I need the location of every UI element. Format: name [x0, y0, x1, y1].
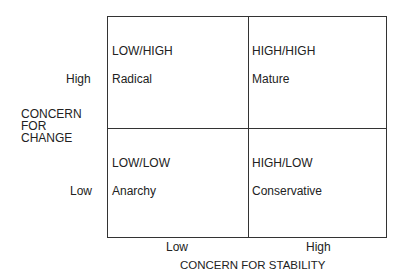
quadrant-top-right-code: HIGH/HIGH [252, 44, 315, 58]
quadrant-top-left-code: LOW/HIGH [112, 44, 173, 58]
horizontal-divider [108, 128, 386, 129]
x-axis-title: CONCERN FOR STABILITY [180, 259, 325, 271]
y-tick-high: High [66, 72, 91, 86]
quadrant-top-left-name: Radical [112, 72, 152, 86]
x-tick-high: High [306, 240, 331, 254]
quadrant-bottom-right-name: Conservative [252, 184, 322, 198]
quadrant-bottom-left-name: Anarchy [112, 184, 156, 198]
quadrant-top-right-name: Mature [252, 72, 289, 86]
quadrant-bottom-right-code: HIGH/LOW [252, 156, 313, 170]
quadrant-bottom-left-code: LOW/LOW [112, 156, 170, 170]
y-tick-low: Low [70, 184, 92, 198]
y-title-line-3: CHANGE [21, 132, 82, 144]
vertical-divider [248, 17, 249, 237]
y-axis-title: CONCERN FOR CHANGE [21, 108, 82, 144]
x-tick-low: Low [166, 240, 188, 254]
